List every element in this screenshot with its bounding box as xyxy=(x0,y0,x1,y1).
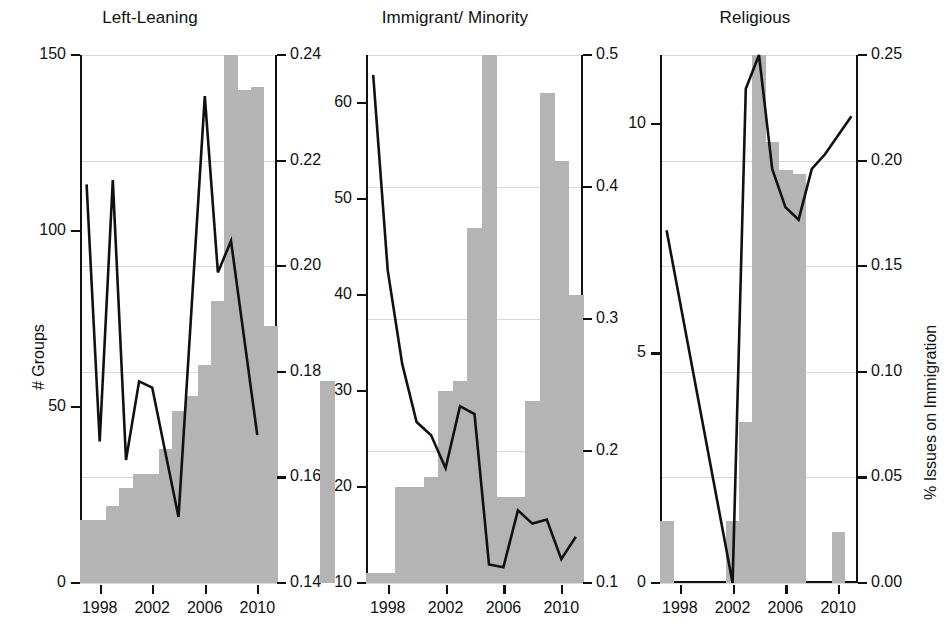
y-tick-mark-left xyxy=(71,230,80,232)
y-tick-label-right: 0.20 xyxy=(871,151,902,169)
bar xyxy=(366,573,381,583)
gridline xyxy=(366,583,583,584)
y-tick-label-left: 60 xyxy=(306,93,352,111)
x-tick-label: 2010 xyxy=(531,599,591,617)
y-tick-mark-right xyxy=(858,265,867,267)
y-tick-label-left: 0 xyxy=(600,573,646,591)
y-tick-label-right: 0.4 xyxy=(596,177,618,195)
x-tick-mark xyxy=(561,585,563,594)
bar xyxy=(198,365,212,583)
y-tick-label-right: 0.18 xyxy=(290,362,321,380)
bar xyxy=(395,487,410,583)
x-tick-label: 2006 xyxy=(473,599,533,617)
x-tick-mark xyxy=(152,585,154,594)
x-tick-label: 2002 xyxy=(122,599,182,617)
bar xyxy=(482,55,497,583)
bar xyxy=(424,477,439,583)
x-tick-label: 2002 xyxy=(703,599,763,617)
y-tick-label-right: 0.22 xyxy=(290,151,321,169)
y-tick-label-left: 0 xyxy=(20,573,66,591)
y-tick-mark-right xyxy=(277,371,286,373)
bar xyxy=(133,474,147,583)
y-tick-mark-left xyxy=(71,406,80,408)
bar xyxy=(251,87,265,583)
y-tick-mark-left xyxy=(651,123,660,125)
bar xyxy=(380,573,395,583)
x-tick-label: 2006 xyxy=(755,599,815,617)
x-tick-mark xyxy=(388,585,390,594)
bar xyxy=(832,532,846,583)
y-tick-label-left: 30 xyxy=(306,381,352,399)
y-tick-mark-right xyxy=(858,476,867,478)
x-tick-label: 1998 xyxy=(358,599,418,617)
y-tick-mark-left xyxy=(357,390,366,392)
y-tick-mark-left xyxy=(357,294,366,296)
bar xyxy=(159,449,173,583)
y-tick-mark-right xyxy=(583,450,592,452)
bar xyxy=(264,326,278,583)
y-tick-mark-left xyxy=(71,582,80,584)
bar xyxy=(238,90,252,583)
y-tick-label-right: 0.00 xyxy=(871,573,902,591)
y-tick-mark-right xyxy=(858,160,867,162)
y-tick-mark-right xyxy=(277,265,286,267)
y-tick-mark-left xyxy=(357,582,366,584)
bar xyxy=(172,411,186,583)
y-tick-mark-left xyxy=(651,582,660,584)
y-tick-label-left: 100 xyxy=(20,221,66,239)
x-tick-mark xyxy=(100,585,102,594)
x-tick-mark xyxy=(680,585,682,594)
bar xyxy=(511,497,526,583)
y-tick-mark-right xyxy=(583,582,592,584)
y-tick-label-right: 0.05 xyxy=(871,467,902,485)
gridline xyxy=(80,583,277,584)
y-tick-label-left: 40 xyxy=(306,285,352,303)
bar xyxy=(792,174,806,583)
gridline xyxy=(660,583,858,584)
y-tick-mark-right xyxy=(858,582,867,584)
bar xyxy=(453,381,468,583)
bar xyxy=(554,161,569,583)
bar xyxy=(211,301,225,583)
panel-title: Religious xyxy=(615,8,895,28)
bar xyxy=(224,55,238,583)
y-tick-label-left: 5 xyxy=(600,343,646,361)
y-tick-mark-right xyxy=(858,371,867,373)
figure-root: # Groups % Issues on Immigration Left-Le… xyxy=(0,0,947,644)
y-tick-label-right: 0.24 xyxy=(290,45,321,63)
y-tick-label-right: 0.2 xyxy=(596,441,618,459)
bar xyxy=(660,521,674,583)
y-tick-mark-right xyxy=(277,54,286,56)
bar xyxy=(119,488,133,583)
x-tick-mark xyxy=(785,585,787,594)
bar xyxy=(467,228,482,583)
x-tick-mark xyxy=(838,585,840,594)
y-tick-mark-right xyxy=(277,476,286,478)
bar xyxy=(779,170,793,583)
bar xyxy=(496,497,511,583)
y-tick-label-right: 0.10 xyxy=(871,362,902,380)
y-tick-mark-left xyxy=(71,54,80,56)
x-tick-label: 1998 xyxy=(650,599,710,617)
y-tick-label-left: 50 xyxy=(20,397,66,415)
x-tick-mark xyxy=(503,585,505,594)
y-tick-mark-right xyxy=(583,318,592,320)
x-tick-label: 2002 xyxy=(416,599,476,617)
bar xyxy=(540,93,555,583)
bar xyxy=(409,487,424,583)
bar xyxy=(525,401,540,583)
y-tick-label-left: 10 xyxy=(306,573,352,591)
x-tick-label: 2010 xyxy=(227,599,287,617)
bar xyxy=(185,396,199,583)
bar xyxy=(438,391,453,583)
x-tick-mark xyxy=(446,585,448,594)
right-axis-title: % Issues on Immigration xyxy=(922,325,940,500)
x-tick-label: 2006 xyxy=(175,599,235,617)
panel-left-leaning: Left-Leaning 0501001500.140.160.180.200.… xyxy=(0,0,320,644)
bar xyxy=(569,295,584,583)
y-tick-label-right: 0.20 xyxy=(290,256,321,274)
x-tick-label: 2010 xyxy=(808,599,868,617)
bar xyxy=(739,422,753,583)
y-tick-label-left: 150 xyxy=(20,45,66,63)
y-tick-mark-right xyxy=(583,186,592,188)
